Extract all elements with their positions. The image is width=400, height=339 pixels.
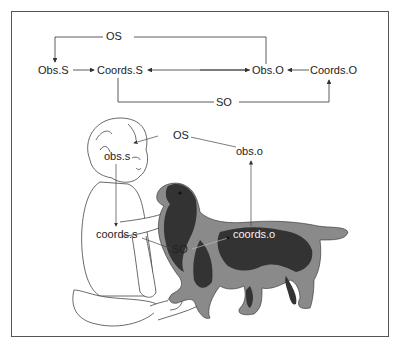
illus-label-obs-o: obs.o — [236, 146, 263, 157]
edge-label-os: OS — [104, 31, 124, 42]
illus-label-coords-o: coords.o — [233, 229, 275, 240]
edge-label-so: SO — [214, 97, 234, 108]
illus-label-coords-s: coords.s — [96, 229, 138, 240]
node-obs-s: Obs.S — [38, 65, 69, 76]
diagram-canvas — [0, 0, 400, 339]
illus-label-obs-s: obs.s — [104, 151, 130, 162]
coords-o-point — [227, 237, 230, 240]
node-coords-s: Coords.S — [97, 65, 143, 76]
illus-label-os: OS — [171, 130, 191, 141]
illus-label-so: SO — [172, 244, 188, 255]
node-obs-o: Obs.O — [252, 65, 284, 76]
node-coords-o: Coords.O — [310, 65, 357, 76]
